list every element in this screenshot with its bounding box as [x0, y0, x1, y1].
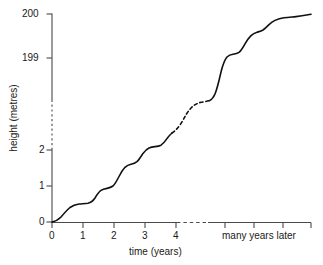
curve-early-solid — [52, 133, 172, 222]
chart-plot-area: height (metres) — [0, 0, 323, 265]
y-tick-label-0: 0 — [39, 217, 45, 227]
curve-late-solid — [210, 14, 312, 100]
x-tick-label-3: 3 — [142, 231, 148, 241]
y-tick-label-1: 1 — [39, 181, 45, 191]
curve-break-dashed — [172, 101, 210, 133]
chart-figure: height (metres) 200 199 2 1 0 0 1 2 3 4 … — [0, 0, 323, 265]
x-axis-title: time (years) — [129, 247, 182, 257]
y-tick-label-2: 2 — [39, 145, 45, 155]
x-tick-label-2: 2 — [111, 231, 117, 241]
x-tick-label-4: 4 — [173, 231, 179, 241]
y-axis-title: height (metres) — [8, 84, 19, 151]
x-axis-many-years-later-label: many years later — [222, 231, 296, 241]
x-tick-label-0: 0 — [49, 231, 55, 241]
y-tick-label-200: 200 — [22, 9, 39, 19]
x-tick-label-1: 1 — [80, 231, 86, 241]
y-tick-label-199: 199 — [22, 53, 39, 63]
